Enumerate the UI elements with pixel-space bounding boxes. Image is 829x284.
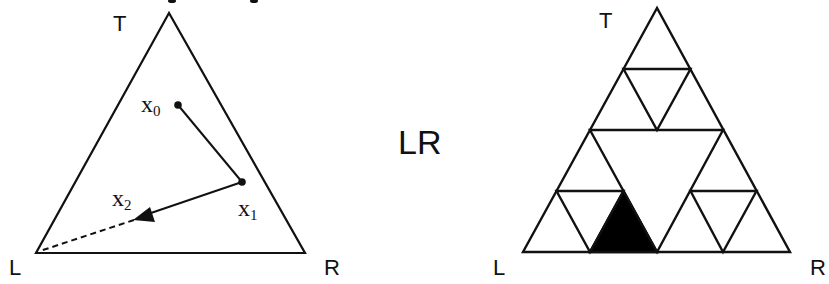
arrowhead-icon xyxy=(133,207,155,222)
point-x0 xyxy=(174,101,182,109)
region-label-LR: LR xyxy=(398,123,441,161)
top-inner-inverted-triangle xyxy=(624,69,691,130)
right-subdivided-simplex xyxy=(523,8,790,252)
left-triangle xyxy=(36,13,305,253)
left-vertex-T: T xyxy=(113,11,126,36)
left-vertex-L: L xyxy=(9,255,21,280)
left-simplex-diagram: T L R x0 x1 x2 xyxy=(9,11,340,280)
label-x2: x2 xyxy=(112,185,132,213)
right-vertex-T: T xyxy=(599,8,612,33)
right-vertex-L: L xyxy=(493,255,505,280)
point-x1 xyxy=(238,178,246,186)
right-vertex-R: R xyxy=(810,255,826,280)
cropped-caption-fragment xyxy=(168,0,258,3)
label-x1: x1 xyxy=(238,195,258,223)
figure-canvas: T L R x0 x1 x2 LR T L R xyxy=(0,0,829,284)
label-x0: x0 xyxy=(141,91,161,119)
left-vertex-R: R xyxy=(324,255,340,280)
dashed-path-to-L xyxy=(40,220,134,251)
bottom-right-inner-inverted-triangle xyxy=(691,191,757,252)
path-x0-x1 xyxy=(178,105,242,182)
path-x1-x2 xyxy=(148,182,242,214)
highlighted-region-LR xyxy=(590,191,657,252)
